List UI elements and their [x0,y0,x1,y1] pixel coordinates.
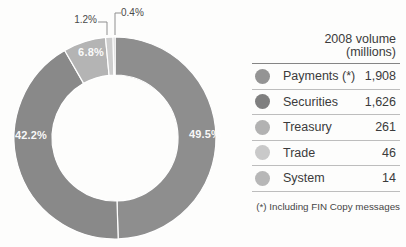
legend-header: 2008 volume (millions) [252,33,400,64]
legend-label: Trade [283,146,315,160]
donut-chart-svg [0,0,240,247]
payments-bullet-icon [255,69,270,84]
leader-lines [98,13,121,35]
pct-label-securities: 42.2% [12,130,50,141]
legend-value: 46 [382,146,400,160]
pct-label-trade: 1.2% [70,15,97,25]
pct-label-payments: 49.5% [186,129,224,140]
securities-bullet-icon [255,94,270,109]
legend-label: Treasury [283,120,332,134]
legend-header-line2: (millions) [252,46,396,59]
legend-value: 261 [375,120,400,134]
legend-row-payments: Payments (*) 1,908 [252,64,400,90]
legend-value: 14 [382,171,400,185]
legend-row-system: System 14 [252,166,400,192]
legend-label: Securities [283,95,338,109]
legend-value: 1,908 [365,69,400,83]
legend-panel: 2008 volume (millions) Payments (*) 1,90… [252,33,400,212]
leader-line-trade [98,22,107,35]
pct-label-treasury: 6.8% [74,47,108,58]
legend-row-trade: Trade 46 [252,141,400,167]
legend-label: System [283,171,325,185]
legend-label: Payments (*) [283,69,355,83]
donut-segment-securities [14,50,118,239]
footnote: (*) Including FIN Copy messages [252,201,400,212]
treasury-bullet-icon [255,120,270,135]
legend-row-securities: Securities 1,626 [252,90,400,116]
figure-2008-volume: 49.5% 42.2% 6.8% 1.2% 0.4% 2008 volume (… [0,0,406,247]
legend-value: 1,626 [365,95,400,109]
pct-label-system: 0.4% [121,8,151,18]
legend-row-treasury: Treasury 261 [252,115,400,141]
trade-bullet-icon [255,145,270,160]
system-bullet-icon [255,171,270,186]
donut-chart-area: 49.5% 42.2% 6.8% 1.2% 0.4% [0,0,240,247]
donut-segment-system [113,37,115,75]
